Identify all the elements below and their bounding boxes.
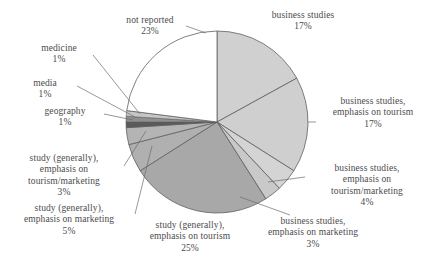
- slice-label-business-studies-tourism: business studies, emphasis on tourism 17…: [318, 96, 428, 130]
- slice-label-line: geography: [26, 106, 104, 117]
- slice-label-line: business studies,: [318, 96, 428, 107]
- slice-label-line: study (generally),: [131, 220, 249, 231]
- slice-label-line: business studies: [243, 10, 363, 21]
- slice-label-line: study (generally),: [6, 203, 132, 214]
- slice-label-line: tourism/marketing: [6, 176, 122, 187]
- slice-label-value: 17%: [243, 21, 363, 32]
- slice-label-line: business studies,: [308, 163, 426, 174]
- slice-label-value: 23%: [97, 26, 203, 37]
- slice-label-line: emphasis on tourism: [318, 107, 428, 118]
- slice-label-study-tourism: study (generally), emphasis on tourism 2…: [131, 220, 249, 254]
- slice-label-line: emphasis on: [308, 174, 426, 185]
- slice-label-line: emphasis on marketing: [6, 214, 132, 225]
- slice-label-business-studies-tourism-marketing: business studies, emphasis on tourism/ma…: [308, 163, 426, 208]
- pie-slices: [126, 31, 308, 213]
- slice-label-line: tourism/marketing: [308, 186, 426, 197]
- slice-label-value: 5%: [6, 226, 132, 237]
- slice-label-value: 3%: [6, 187, 122, 198]
- slice-label-study-marketing: study (generally), emphasis on marketing…: [6, 203, 132, 237]
- slice-label-not-reported: not reported 23%: [97, 15, 203, 38]
- slice-label-line: medicine: [26, 43, 92, 54]
- slice-label-value: 1%: [26, 117, 104, 128]
- slice-label-line: emphasis on: [6, 164, 122, 175]
- slice-label-line: study (generally),: [6, 153, 122, 164]
- slice-label-line: not reported: [97, 15, 203, 26]
- slice-label-value: 1%: [26, 54, 92, 65]
- slice-label-line: emphasis on tourism: [131, 231, 249, 242]
- slice-label-business-studies: business studies 17%: [243, 10, 363, 33]
- slice-label-study-tourism-marketing: study (generally), emphasis on tourism/m…: [6, 153, 122, 198]
- slice-label-line: emphasis on marketing: [253, 227, 373, 238]
- slice-label-line: media: [17, 78, 73, 89]
- slice-label-medicine: medicine 1%: [26, 43, 92, 66]
- slice-not-reported[interactable]: [127, 31, 217, 122]
- slice-label-line: business studies,: [253, 216, 373, 227]
- slice-label-value: 3%: [253, 239, 373, 250]
- slice-label-value: 1%: [17, 89, 73, 100]
- slice-label-media: media 1%: [17, 78, 73, 101]
- slice-label-value: 17%: [318, 119, 428, 130]
- slice-label-value: 25%: [131, 243, 249, 254]
- pie-chart-figure: business studies 17% business studies, e…: [0, 0, 428, 268]
- slice-label-value: 4%: [308, 197, 426, 208]
- slice-label-geography: geography 1%: [26, 106, 104, 129]
- slice-label-business-studies-marketing: business studies, emphasis on marketing …: [253, 216, 373, 250]
